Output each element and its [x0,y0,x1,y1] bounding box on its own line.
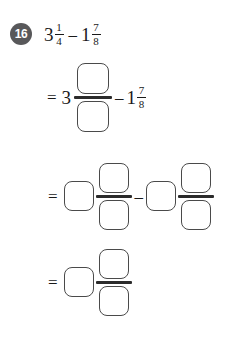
step3-numerator-box[interactable] [99,249,129,279]
solution-step-3: = [48,249,132,316]
step2-subtrahend-whole-box[interactable] [146,181,176,211]
step2-subtrahend-numerator-box[interactable] [181,163,211,193]
step1-denominator-box[interactable] [77,101,109,132]
step1-whole-number: 3 [62,88,72,107]
problem-expression: 3 1 4 – 1 7 8 [44,23,102,45]
first-fraction-numerator: 1 [55,22,63,33]
second-fraction-denominator: 8 [92,36,100,47]
step1-subtrahend: 1 7 8 [127,85,148,110]
step2-whole-box[interactable] [64,181,94,211]
step1-subtrahend-whole: 1 [127,88,137,107]
mixed-number-first: 3 1 4 [44,22,65,47]
step1-subtrahend-denominator: 8 [138,99,146,110]
solution-step-1: = 3 – 1 7 8 [47,63,147,132]
subtraction-operator: – [69,26,78,43]
step3-fraction-bar [96,281,132,284]
step3-whole-box[interactable] [64,267,94,297]
step2-minuend-fraction [96,163,132,230]
step1-answer-fraction [74,63,112,132]
step2-subtrahend-denominator-box[interactable] [181,200,211,230]
step1-equals-sign: = [47,89,57,106]
second-fraction: 7 8 [92,22,101,47]
solution-step-2: = – [48,163,214,230]
first-fraction-denominator: 4 [55,36,63,47]
step1-subtrahend-fraction: 7 8 [137,85,146,110]
step2-denominator-box[interactable] [99,200,129,230]
second-fraction-numerator: 7 [92,22,100,33]
step1-fraction-bar [74,96,112,99]
step2-subtrahend-fraction [178,163,214,230]
question-number-badge: 16 [10,23,32,45]
step2-equals-sign: = [48,188,58,205]
step2-fraction-bar [96,195,132,198]
worksheet-problem: 16 3 1 4 – 1 7 8 = 3 [0,0,237,337]
step3-equals-sign: = [48,274,58,291]
step2-subtrahend-fraction-bar [178,195,214,198]
step3-answer-fraction [96,249,132,316]
first-whole-number: 3 [44,25,54,44]
step1-numerator-box[interactable] [77,63,109,94]
mixed-number-second: 1 7 8 [81,22,102,47]
step2-numerator-box[interactable] [99,163,129,193]
step1-minus-sign: – [115,89,124,106]
step1-subtrahend-numerator: 7 [138,85,146,96]
second-whole-number: 1 [81,25,91,44]
first-fraction: 1 4 [55,22,64,47]
step2-minus-sign: – [135,188,144,205]
step3-denominator-box[interactable] [99,286,129,316]
